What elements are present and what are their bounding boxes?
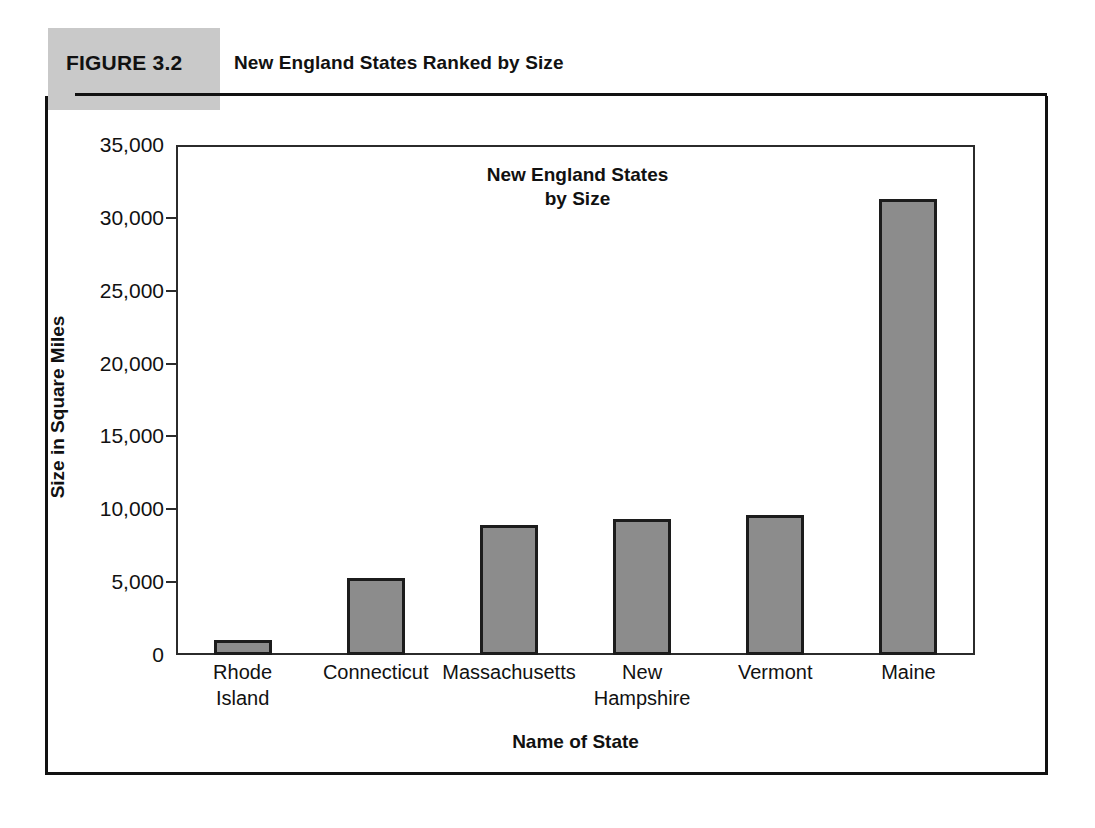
- x-axis-tick-label-line: Maine: [842, 659, 975, 685]
- y-axis-tick-mark: [166, 363, 177, 365]
- bar: [480, 525, 538, 655]
- bar: [347, 578, 405, 655]
- y-axis-tick-mark: [166, 217, 177, 219]
- x-axis-title: Name of State: [176, 731, 975, 753]
- x-axis-tick-labels: RhodeIslandConnecticutMassachusettsNewHa…: [176, 659, 975, 729]
- x-axis-tick-label-line: Massachusetts: [442, 659, 575, 685]
- y-axis-tick-mark: [166, 581, 177, 583]
- figure-number-label: FIGURE 3.2: [66, 51, 182, 75]
- y-axis-tick-mark: [166, 290, 177, 292]
- y-axis-tick-label: 35,000: [54, 133, 164, 157]
- y-axis-tick-mark: [166, 508, 177, 510]
- bar-chart: Size in Square Miles 05,00010,00015,0002…: [0, 96, 1095, 775]
- x-axis-tick-label: RhodeIsland: [176, 659, 309, 711]
- x-axis-tick-label: Vermont: [709, 659, 842, 685]
- x-axis-tick-label-line: New: [576, 659, 709, 685]
- y-axis-tick-label: 25,000: [54, 279, 164, 303]
- x-axis-tick-label-line: Connecticut: [309, 659, 442, 685]
- x-axis-tick-label-line: Rhode: [176, 659, 309, 685]
- x-axis-tick-label: Connecticut: [309, 659, 442, 685]
- bars-layer: [176, 145, 975, 655]
- bar: [746, 515, 804, 655]
- x-axis-tick-label: Maine: [842, 659, 975, 685]
- y-axis-tick-label: 30,000: [54, 206, 164, 230]
- y-axis-tick-label: 10,000: [54, 497, 164, 521]
- y-axis-tick-label: 15,000: [54, 424, 164, 448]
- x-axis-tick-label: Massachusetts: [442, 659, 575, 685]
- x-axis-tick-label-line: Hampshire: [576, 685, 709, 711]
- y-axis-tick-mark: [166, 435, 177, 437]
- figure-caption-title: New England States Ranked by Size: [234, 52, 564, 74]
- bar: [613, 519, 671, 655]
- x-axis-tick-label-line: Vermont: [709, 659, 842, 685]
- y-axis-tick-labels: 05,00010,00015,00020,00025,00030,00035,0…: [52, 96, 164, 775]
- x-axis-tick-label-line: Island: [176, 685, 309, 711]
- y-axis-tick-label: 20,000: [54, 352, 164, 376]
- y-axis-tick-label: 5,000: [54, 570, 164, 594]
- bar: [214, 640, 272, 655]
- bar: [879, 199, 937, 655]
- y-axis-tick-label: 0: [54, 643, 164, 667]
- x-axis-tick-label: NewHampshire: [576, 659, 709, 711]
